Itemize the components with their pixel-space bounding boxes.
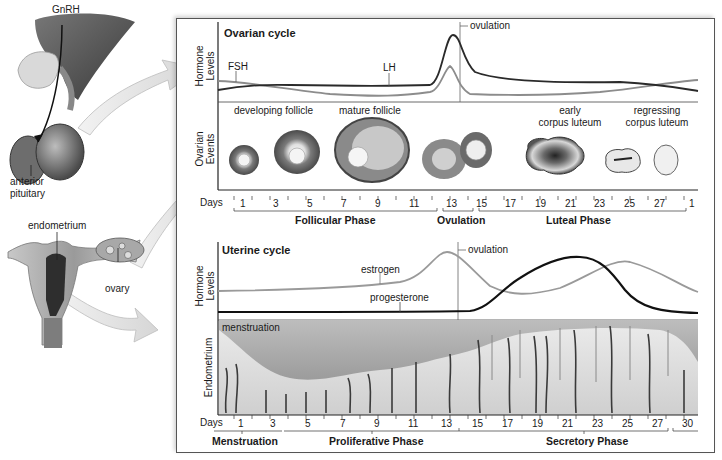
cycle-charts xyxy=(0,0,722,460)
endometrium-axis-label: Endometrium xyxy=(203,328,214,408)
menstruation-phase-label: Menstruation xyxy=(212,435,278,447)
uterine-ovulation-label: ovulation xyxy=(468,245,508,255)
luteal-phase-label: Luteal Phase xyxy=(546,214,611,226)
uterine-day-tick: 11 xyxy=(408,419,418,429)
uterine-day-tick: 1 xyxy=(238,419,244,429)
fsh-curve xyxy=(218,66,698,96)
corpus-albicans xyxy=(654,145,678,175)
lh-curve xyxy=(218,35,698,91)
ovarian-days-label: Days xyxy=(200,198,223,208)
ovarian-hormone-axis-label: HormoneLevels xyxy=(194,36,216,96)
ovarian-events-axis-label: OvarianEvents xyxy=(194,119,216,179)
uterine-day-tick: 27 xyxy=(652,419,663,429)
secretory-phase-label: Secretory Phase xyxy=(546,435,628,447)
fsh-label: FSH xyxy=(228,62,248,72)
ovarian-day-tick: 5 xyxy=(307,199,313,209)
mature-follicle xyxy=(335,118,409,182)
proliferative-phase-label: Proliferative Phase xyxy=(329,435,424,447)
ovarian-day-tick: 7 xyxy=(341,199,347,209)
ovarian-day-axis xyxy=(234,196,686,211)
early-corpus-luteum xyxy=(526,137,584,174)
ovarian-day-tick: 3 xyxy=(273,199,279,209)
ovarian-day-tick: 11 xyxy=(409,199,419,209)
uterine-day-tick: 19 xyxy=(532,419,543,429)
follicular-phase-label: Follicular Phase xyxy=(295,214,376,226)
developing-follicle-small xyxy=(229,145,259,175)
uterine-day-tick: 3 xyxy=(270,419,276,429)
uterine-day-tick: 25 xyxy=(622,419,633,429)
uterine-day-tick: 23 xyxy=(592,419,603,429)
uterine-day-tick: 7 xyxy=(340,419,346,429)
ovarian-day-tick: 1 xyxy=(240,199,246,209)
regressing-corpus-luteum xyxy=(606,149,641,173)
ovarian-day-tick: 21 xyxy=(565,199,576,209)
uterine-day-tick: 15 xyxy=(472,419,483,429)
ovarian-day-tick: 17 xyxy=(505,199,516,209)
ovarian-day-tick: 9 xyxy=(375,199,381,209)
regressing-corpus-luteum-label-line2: corpus luteum xyxy=(612,118,702,128)
ovulating-follicle xyxy=(422,132,492,179)
ovarian-cycle-title: Ovarian cycle xyxy=(224,28,296,39)
ovarian-day-tick: 13 xyxy=(446,199,457,209)
early-corpus-luteum-label-line2: corpus luteum xyxy=(523,118,617,128)
early-corpus-luteum-label-line1: early xyxy=(540,106,600,116)
uterine-day-tick: 9 xyxy=(374,419,380,429)
estrogen-label: estrogen xyxy=(361,265,400,275)
developing-follicle-large xyxy=(274,130,320,174)
uterine-days-label: Days xyxy=(200,418,223,428)
ovarian-day-tick: 27 xyxy=(654,199,665,209)
ovulation-phase-label: Ovulation xyxy=(437,214,485,226)
uterine-day-tick: 17 xyxy=(502,419,513,429)
menstruation-label: menstruation xyxy=(222,323,280,333)
ovarian-day-tick: 1 xyxy=(689,199,695,209)
ovarian-day-tick: 25 xyxy=(624,199,635,209)
uterine-cycle-title: Uterine cycle xyxy=(222,245,290,256)
lh-label: LH xyxy=(383,63,396,73)
uterine-day-tick: 21 xyxy=(562,419,573,429)
ovarian-ovulation-label: ovulation xyxy=(470,21,510,31)
ovarian-day-tick: 19 xyxy=(535,199,546,209)
regressing-corpus-luteum-label-line1: regressing xyxy=(617,106,697,116)
ovarian-day-tick: 23 xyxy=(594,199,605,209)
uterine-day-tick: 13 xyxy=(441,419,452,429)
uterine-hormone-axis-label: HormoneLevels xyxy=(194,256,216,316)
progesterone-label: progesterone xyxy=(370,293,429,303)
mature-follicle-label: mature follicle xyxy=(339,106,401,116)
endometrium-illustration xyxy=(219,320,698,415)
developing-follicle-label: developing follicle xyxy=(234,106,313,116)
uterine-day-tick: 30 xyxy=(682,419,693,429)
ovarian-day-tick: 15 xyxy=(476,199,487,209)
uterine-day-tick: 5 xyxy=(305,419,311,429)
